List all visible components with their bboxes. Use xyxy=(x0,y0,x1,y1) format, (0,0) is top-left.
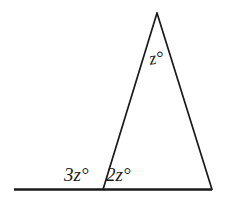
angle-label-base-exterior: 3z° xyxy=(64,165,89,184)
angle-label-apex: z° xyxy=(148,48,165,68)
angle-label-base-interior: 2z° xyxy=(106,165,131,184)
geometry-figure: 3z° 2z° z° xyxy=(0,0,227,209)
triangle-right-edge xyxy=(157,13,212,190)
